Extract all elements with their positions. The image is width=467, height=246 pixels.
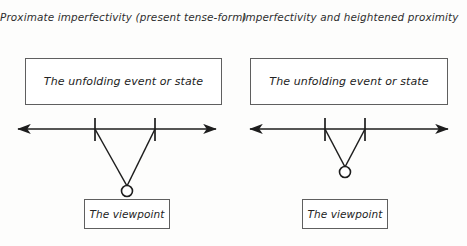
sight-line-right-b (345, 129, 365, 167)
viewpoint-box-label-left: The viewpoint (89, 208, 164, 220)
viewpoint-circle-right (340, 167, 351, 178)
event-box-label-left: The unfolding event or state (44, 75, 203, 88)
viewpoint-box-left: The viewpoint (84, 199, 170, 229)
viewpoint-box-label-right: The viewpoint (307, 208, 382, 220)
sight-line-left-b (127, 129, 155, 186)
viewpoint-box-right: The viewpoint (302, 199, 388, 229)
event-box-label-right: The unfolding event or state (269, 75, 428, 88)
event-box-left: The unfolding event or state (25, 58, 222, 105)
event-box-right: The unfolding event or state (250, 58, 448, 105)
sight-line-left-a (95, 129, 127, 186)
sight-line-right-a (325, 129, 345, 167)
viewpoint-circle-left (122, 186, 133, 197)
diagram-canvas: Proximate imperfectivity (present tense-… (0, 0, 467, 246)
panel-heightened-proximity: Imperfectivity and heightened proximity … (234, 0, 467, 246)
panel-proximate-imperfectivity: Proximate imperfectivity (present tense-… (0, 0, 233, 246)
